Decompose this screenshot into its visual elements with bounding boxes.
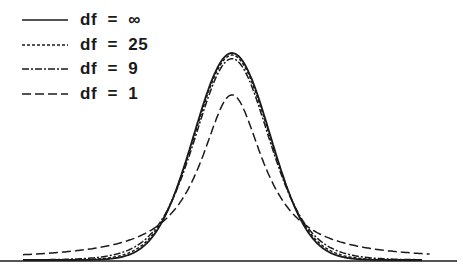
dash-dot-line-swatch-icon [22, 64, 68, 74]
dashed-line-swatch-icon [22, 89, 68, 99]
legend-label: df = ∞ [80, 10, 141, 30]
solid-line-swatch-icon [22, 15, 68, 25]
legend-label: df = 25 [80, 35, 148, 55]
curve-dashed [23, 95, 430, 255]
legend-label: df = 1 [80, 84, 138, 104]
legend-label: df = 9 [80, 59, 138, 79]
legend-item-df-infinity: df = ∞ [22, 8, 148, 33]
legend-item-df-9: df = 9 [22, 57, 148, 82]
dotted-line-swatch-icon [22, 40, 68, 50]
legend: df = ∞ df = 25 df = 9 df = 1 [22, 8, 148, 106]
legend-item-df-1: df = 1 [22, 82, 148, 107]
legend-item-df-25: df = 25 [22, 33, 148, 58]
